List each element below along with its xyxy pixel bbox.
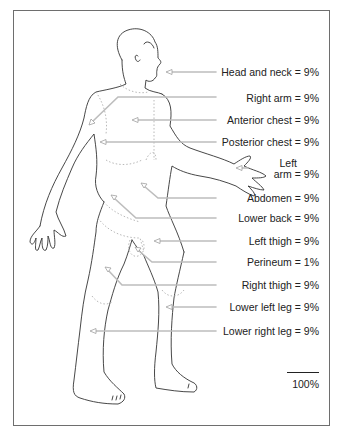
total-rule (287, 372, 319, 373)
label-head-neck: Head and neck = 9% (221, 66, 319, 78)
right-knee-boundary (92, 296, 112, 304)
arrowhead-left-thigh (154, 239, 160, 244)
label-left-thigh: Left thigh = 9% (249, 235, 319, 247)
arrowhead-head-neck (166, 70, 172, 75)
arrowhead-lower-left-leg (166, 305, 172, 310)
arrowhead-posterior-chest (100, 140, 106, 145)
label-right-arm: Right arm = 9% (246, 92, 319, 104)
label-abdomen: Abdomen = 9% (247, 192, 319, 204)
label-perineum: Perineum = 1% (247, 256, 319, 268)
leader-lower-back (114, 198, 216, 218)
chest-bottom-boundary (106, 153, 156, 165)
toes-left (112, 395, 121, 400)
head-outline (117, 29, 162, 94)
label-lower-left-leg: Lower left leg = 9% (229, 301, 319, 313)
left-hip-outline (73, 202, 132, 404)
arrowhead-anterior-chest (132, 118, 138, 123)
leader-abdomen (144, 186, 216, 198)
torso-left-outline (40, 60, 126, 226)
right-arm-outline (30, 134, 104, 250)
label-right-thigh: Right thigh = 9% (242, 279, 319, 291)
label-left-arm-line2: arm = 9% (274, 168, 319, 180)
toes-right (188, 384, 189, 388)
arrowhead-left-arm (236, 166, 242, 171)
label-posterior-chest: Posterior chest = 9% (222, 136, 319, 148)
label-lower-back: Lower back = 9% (238, 212, 319, 224)
left-knee-boundary (162, 290, 184, 296)
arrowhead-lower-right-leg (90, 329, 96, 334)
face-detail (135, 42, 154, 62)
leader-right-thigh (108, 270, 216, 285)
neck-boundary (120, 84, 148, 93)
label-lower-right-leg: Lower right leg = 9% (223, 325, 319, 337)
leader-perineum (138, 250, 216, 262)
total-label: 100% (292, 378, 319, 390)
label-anterior-chest: Anterior chest = 9% (227, 114, 319, 126)
